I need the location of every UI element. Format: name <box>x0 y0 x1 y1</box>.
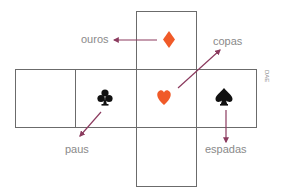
credit-dae: DAE <box>264 70 270 82</box>
face-left-blank <box>16 70 76 128</box>
label-ouros: ouros <box>81 33 109 45</box>
label-paus: paus <box>65 143 89 155</box>
diamond-icon <box>163 31 175 48</box>
cube-net-diagram: ouros copas paus espadas DAE <box>0 0 285 194</box>
arrows <box>80 40 226 142</box>
label-copas: copas <box>213 35 243 47</box>
spade-icon <box>216 88 233 106</box>
face-bottom <box>137 128 197 187</box>
club-icon <box>97 89 112 105</box>
arrow-paus <box>80 112 101 136</box>
label-espadas: espadas <box>205 143 247 155</box>
heart-icon <box>157 90 170 105</box>
